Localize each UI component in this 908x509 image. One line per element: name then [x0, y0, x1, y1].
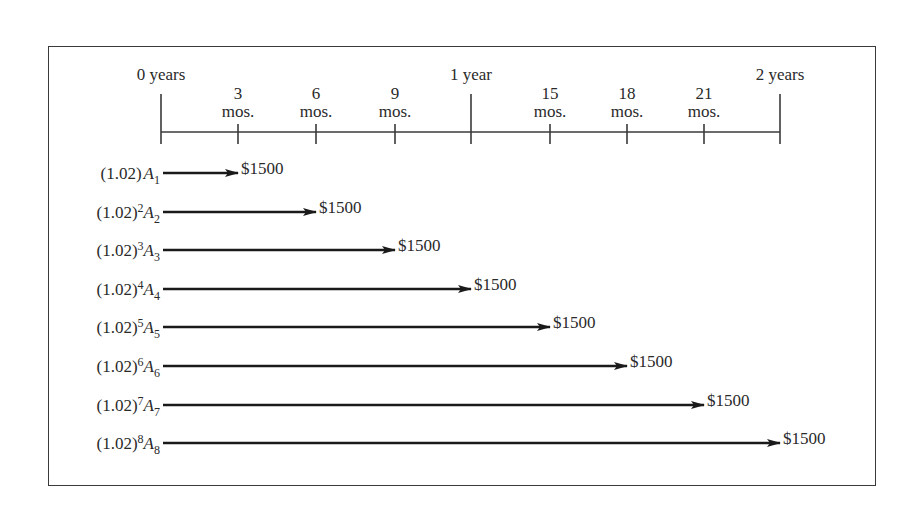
payment-amount: $1500: [474, 275, 517, 294]
payment-row: (1.02)4A4$1500: [97, 275, 517, 303]
payment-row: (1.02)8A8$1500: [97, 429, 826, 457]
compound-factor-label: (1.02)8A8: [97, 432, 160, 457]
tick-label: 1 year: [450, 65, 492, 84]
payment-row: (1.02)5A5$1500: [97, 313, 596, 341]
payment-amount: $1500: [319, 198, 362, 217]
tick-label: 15: [542, 84, 559, 103]
timeline-axis: 0 years3mos.6mos.9mos.1 year15mos.18mos.…: [137, 65, 805, 144]
tick-unit-label: mos.: [300, 102, 333, 121]
compound-factor-label: (1.02)7A7: [97, 394, 160, 419]
compound-factor-label: (1.02)2A2: [97, 201, 160, 226]
compound-factor-label: (1.02)6A6: [97, 355, 160, 380]
annuity-timeline-diagram: 0 years3mos.6mos.9mos.1 year15mos.18mos.…: [0, 0, 908, 509]
payment-amount: $1500: [241, 159, 284, 178]
tick-label: 3: [234, 84, 243, 103]
payment-row: (1.02)2A2$1500: [97, 198, 362, 226]
compound-factor-label: (1.02)4A4: [97, 278, 160, 303]
tick-label: 6: [312, 84, 321, 103]
payment-rows: (1.02)A1$1500(1.02)2A2$1500(1.02)3A3$150…: [97, 159, 826, 457]
payment-row: (1.02)7A7$1500: [97, 391, 750, 419]
payment-amount: $1500: [630, 352, 673, 371]
tick-unit-label: mos.: [534, 102, 567, 121]
payment-amount: $1500: [553, 313, 596, 332]
tick-label: 9: [391, 84, 400, 103]
payment-amount: $1500: [398, 236, 441, 255]
tick-label: 2 years: [756, 65, 805, 84]
tick-unit-label: mos.: [611, 102, 644, 121]
compound-factor-label: (1.02)A1: [101, 164, 160, 187]
tick-unit-label: mos.: [688, 102, 721, 121]
tick-unit-label: mos.: [379, 102, 412, 121]
tick-label: 18: [619, 84, 636, 103]
compound-factor-label: (1.02)5A5: [97, 316, 160, 341]
tick-unit-label: mos.: [222, 102, 255, 121]
payment-row: (1.02)A1$1500: [101, 159, 284, 187]
payment-row: (1.02)3A3$1500: [97, 236, 441, 264]
tick-label: 0 years: [137, 65, 186, 84]
tick-label: 21: [696, 84, 713, 103]
payment-row: (1.02)6A6$1500: [97, 352, 673, 380]
payment-amount: $1500: [783, 429, 826, 448]
compound-factor-label: (1.02)3A3: [97, 239, 160, 264]
payment-amount: $1500: [707, 391, 750, 410]
